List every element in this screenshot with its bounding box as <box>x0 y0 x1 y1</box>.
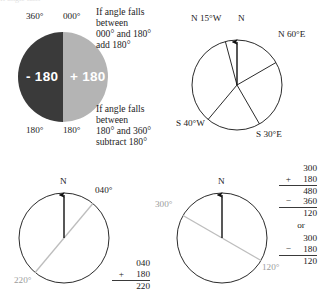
example-left-math-result: 220 <box>112 280 150 291</box>
example-right-graphic <box>177 193 267 283</box>
example-right-north-label: N <box>218 177 225 187</box>
example-left-math-operand2: 180 <box>118 269 150 279</box>
ray-s30e <box>237 85 260 124</box>
quadrant-label-s40w: S 40°W <box>176 119 205 129</box>
note-bottom-line2: between <box>96 115 128 125</box>
example-right-back-bearing: 120° <box>262 263 279 273</box>
pie-tick-360: 360° <box>26 12 43 22</box>
pie-tick-000: 000° <box>63 12 80 22</box>
pie-tick-180-left: 180° <box>26 126 43 136</box>
example-right-math-a-operand2: 180 <box>285 174 317 184</box>
quadrant-north-label: N <box>238 14 245 24</box>
example-right-math-a-operand1: 300 <box>285 163 317 173</box>
example-right-math-a-result: 120 <box>279 207 317 218</box>
note-bottom-line3: 180° and 360° <box>96 126 151 136</box>
quadrant-label-n15w: N 15°W <box>191 14 221 24</box>
note-top-line1: If angle falls <box>96 7 144 17</box>
note-top-line3: 000° and 180° <box>96 29 151 39</box>
ray-n15w <box>225 42 237 86</box>
note-top-line4: add 180° <box>96 40 130 50</box>
ray-s40w <box>208 85 237 120</box>
note-bottom-line1: If angle falls <box>96 104 144 114</box>
note-top-line2: between <box>96 18 128 28</box>
figure-root: If angle falls <box>0 0 322 305</box>
pie-tick-180-right: 180° <box>63 126 80 136</box>
pie-left-label: - 180 <box>26 69 58 84</box>
quadrant-circle-graphic <box>192 40 282 130</box>
example-right-forward-bearing: 300° <box>155 200 172 210</box>
example-left-math-operand1: 040 <box>118 258 150 268</box>
example-left-forward-bearing: 040° <box>95 186 112 196</box>
diagram-canvas <box>0 0 322 305</box>
example-right-math-b-operand1: 300 <box>285 233 317 243</box>
example-right-math-a-subtotal: 480 <box>279 185 317 196</box>
example-left-back-bearing: 220° <box>14 276 31 286</box>
note-bottom-line4: subtract 180° <box>96 137 147 147</box>
example-left-graphic <box>19 193 109 283</box>
quadrant-label-n60e: N 60°E <box>278 30 305 40</box>
ray-n60e <box>237 63 276 86</box>
pie-right-label: + 180 <box>70 69 106 84</box>
example-left-north-label: N <box>60 177 67 187</box>
example-right-math-a-operand3: 360 <box>285 196 317 206</box>
example-right-math-b-result: 120 <box>279 255 317 266</box>
quadrant-label-s30e: S 30°E <box>256 130 282 140</box>
example-right-math-b-operand2: 180 <box>285 244 317 254</box>
example-right-math-connector: or <box>285 220 317 230</box>
